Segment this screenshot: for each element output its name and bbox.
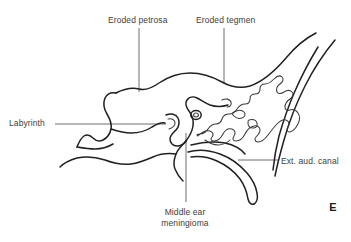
label-ext-aud-canal: Ext. aud. canal bbox=[281, 156, 339, 167]
label-labyrinth: Labyrinth bbox=[9, 118, 45, 129]
panel-letter: E bbox=[329, 201, 337, 213]
label-middle-ear-meningioma-line2: meningioma bbox=[161, 218, 208, 228]
label-eroded-tegmen: Eroded tegmen bbox=[196, 15, 255, 26]
tegmen-superior-border bbox=[116, 33, 316, 93]
internal-auditory-canal-lumen bbox=[194, 113, 199, 117]
mastoid-tip-contour bbox=[191, 157, 254, 205]
labyrinth-inner-turn bbox=[168, 119, 175, 129]
label-eroded-petrosa: Eroded petrosa bbox=[108, 15, 168, 26]
inferior-accessory-contour bbox=[77, 144, 113, 149]
figure-container: Eroded petrosa Eroded tegmen Labyrinth E… bbox=[0, 0, 351, 242]
anatomy-line-drawing bbox=[0, 0, 351, 242]
ext-aud-canal-superior-wall bbox=[191, 142, 245, 154]
label-middle-ear-meningioma-line1: Middle ear bbox=[165, 207, 206, 217]
label-middle-ear-meningioma: Middle ear meningioma bbox=[139, 207, 231, 228]
middle-ear-floor-contour bbox=[174, 141, 186, 181]
petrous-apex-outline bbox=[77, 93, 116, 147]
mastoid-air-cell-small-a bbox=[233, 111, 246, 119]
skull-base-inferior-line bbox=[60, 154, 176, 167]
